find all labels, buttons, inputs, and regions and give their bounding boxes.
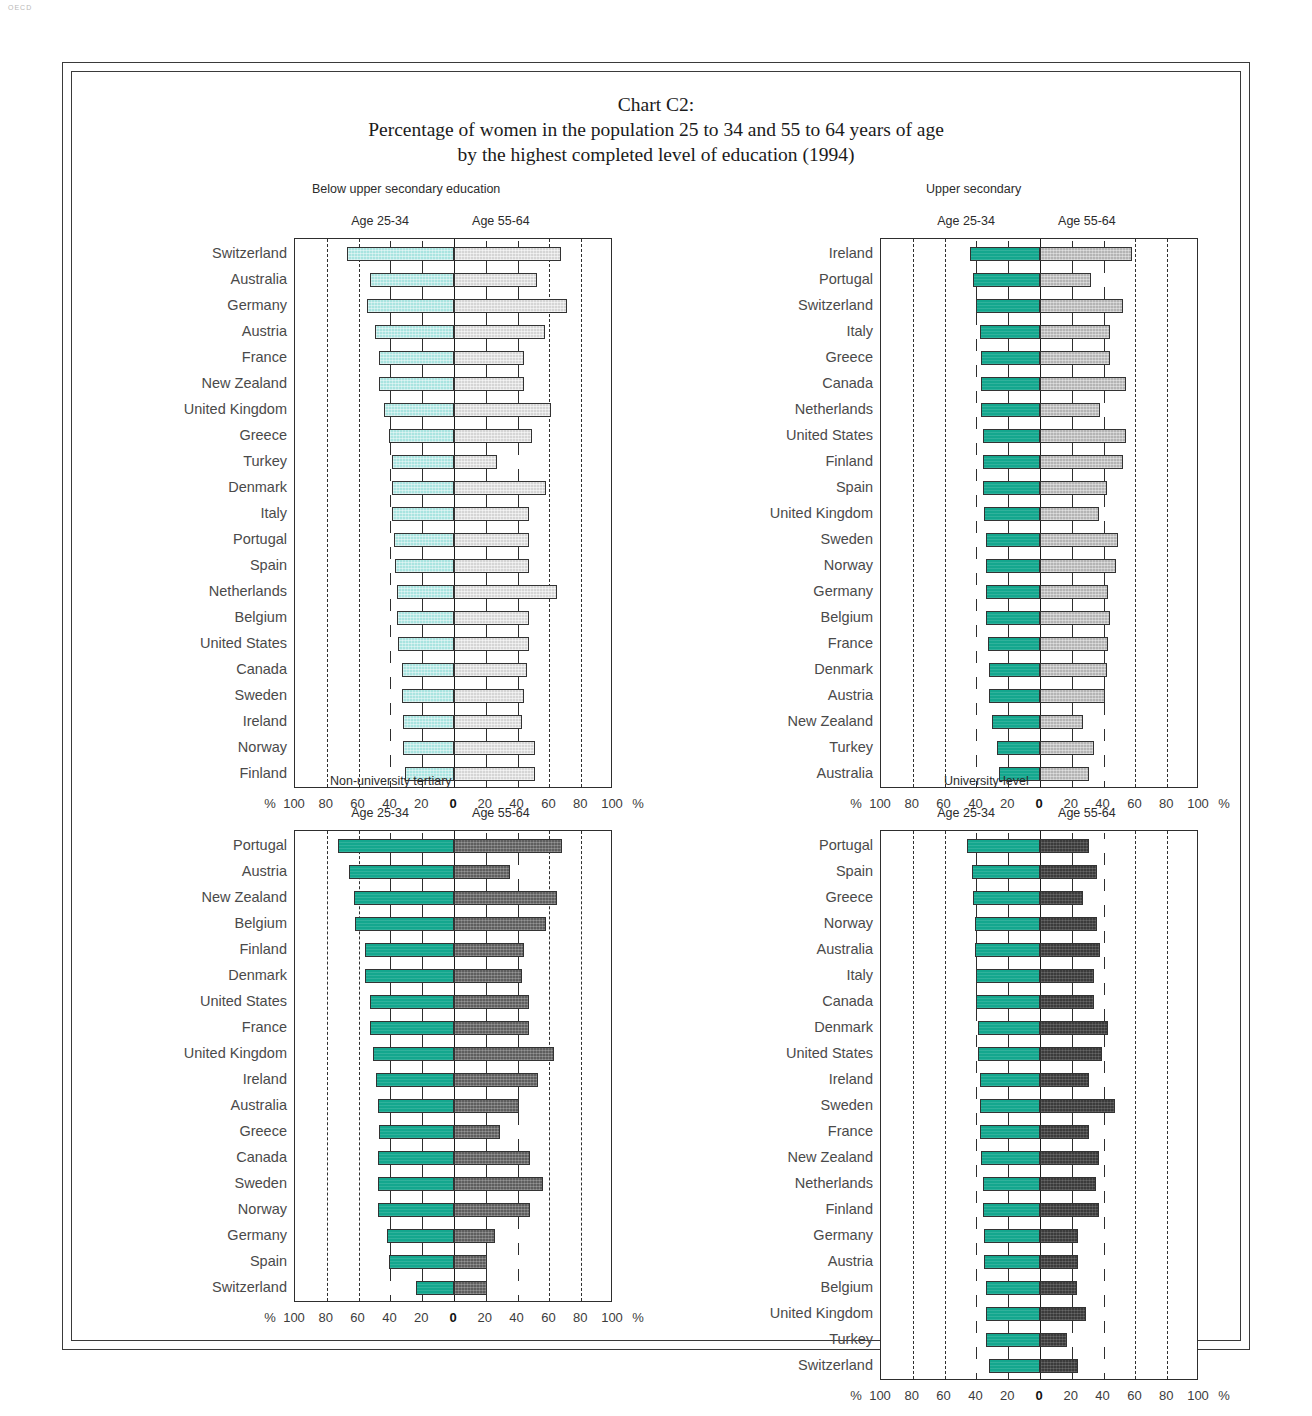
bar-age-55-64 [454, 1021, 529, 1035]
bar-row [295, 267, 611, 293]
axis-tick [976, 449, 977, 455]
bar-age-25-34 [967, 839, 1040, 853]
bar-age-25-34 [375, 325, 455, 339]
bar-row [881, 631, 1197, 657]
axis-tick [976, 423, 977, 429]
bar-row [295, 1249, 611, 1275]
bar-age-25-34 [395, 559, 454, 573]
bar-row [295, 397, 611, 423]
axis-tick [976, 1353, 977, 1359]
bar-age-55-64 [454, 559, 529, 573]
plot-inner [881, 239, 1197, 787]
axis-tick [976, 1327, 977, 1333]
bar-row [881, 963, 1197, 989]
axis-tick [390, 553, 391, 559]
axis-tick [1104, 1223, 1105, 1229]
category-label: France [72, 344, 287, 370]
category-label: Netherlands [72, 578, 287, 604]
bar-age-55-64 [454, 865, 510, 879]
bar-row [295, 631, 611, 657]
bar-age-25-34 [989, 663, 1040, 677]
bar-age-25-34 [387, 1229, 454, 1243]
axis-tick [1104, 267, 1105, 273]
bar-age-25-34 [378, 1099, 454, 1113]
bar-row [881, 1119, 1197, 1145]
chart-inner-frame: Chart C2: Percentage of women in the pop… [71, 71, 1241, 1341]
bar-age-55-64 [454, 585, 557, 599]
category-label: Italy [658, 318, 873, 344]
axis-tick-label: 80 [573, 796, 587, 811]
category-label: Spain [72, 1248, 287, 1274]
category-label: Spain [658, 858, 873, 884]
category-label: Greece [658, 344, 873, 370]
bar-row [295, 1145, 611, 1171]
axis-tick [976, 605, 977, 611]
bar-row [295, 1041, 611, 1067]
bar-row [295, 833, 611, 859]
bar-row [295, 241, 611, 267]
bar-age-25-34 [397, 611, 454, 625]
category-label: Ireland [72, 1066, 287, 1092]
axis-tick [976, 319, 977, 325]
bar-row [881, 859, 1197, 885]
bar-row [881, 937, 1197, 963]
bar-age-25-34 [976, 969, 1040, 983]
category-label: Ireland [72, 708, 287, 734]
bar-row [881, 1041, 1197, 1067]
axis-tick [518, 781, 519, 787]
bar-row [295, 293, 611, 319]
axis-tick [390, 709, 391, 715]
category-label: Belgium [72, 910, 287, 936]
category-label: Portugal [72, 526, 287, 552]
category-label: Italy [72, 500, 287, 526]
bar-age-25-34 [980, 1125, 1040, 1139]
bar-row [881, 371, 1197, 397]
bar-age-25-34 [370, 995, 454, 1009]
bar-age-55-64 [1040, 917, 1097, 931]
bar-row [881, 1275, 1197, 1301]
axis-tick-label: 80 [319, 1310, 333, 1325]
legend-age-55-64: Age 55-64 [472, 214, 530, 228]
bar-row [295, 553, 611, 579]
bar-row [881, 475, 1197, 501]
bar-row [881, 1015, 1197, 1041]
bar-row [295, 449, 611, 475]
axis-tick [1104, 963, 1105, 969]
axis-tick-label: 80 [1159, 796, 1173, 811]
axis-tick-label: 40 [968, 1388, 982, 1403]
axis-tick [1072, 1373, 1073, 1379]
category-label: Norway [658, 910, 873, 936]
bar-age-25-34 [378, 1151, 454, 1165]
bar-row [881, 1301, 1197, 1327]
category-label: United States [658, 1040, 873, 1066]
axis-tick-label: 20 [414, 1310, 428, 1325]
category-label: New Zealand [658, 708, 873, 734]
bar-age-55-64 [1040, 1359, 1078, 1373]
bar-age-55-64 [454, 377, 524, 391]
panel-title: Non-university tertiary [330, 774, 452, 788]
axis-tick [976, 735, 977, 741]
bar-age-55-64 [454, 1125, 500, 1139]
axis-tick [976, 475, 977, 481]
category-label: Switzerland [72, 240, 287, 266]
bar-age-25-34 [975, 943, 1040, 957]
category-label: Turkey [658, 1326, 873, 1352]
bar-age-25-34 [986, 1281, 1040, 1295]
category-label: United Kingdom [72, 1040, 287, 1066]
bar-age-25-34 [338, 839, 454, 853]
axis-tick [976, 345, 977, 351]
bar-age-25-34 [973, 891, 1040, 905]
bar-age-25-34 [347, 247, 454, 261]
axis-tick [1104, 859, 1105, 865]
bar-age-25-34 [370, 273, 454, 287]
category-label: Denmark [72, 474, 287, 500]
bar-row [295, 605, 611, 631]
category-label: Turkey [72, 448, 287, 474]
bar-age-25-34 [981, 403, 1040, 417]
bar-row [295, 1223, 611, 1249]
axis-tick-label: 0 [1035, 1388, 1042, 1403]
axis-tick-label: 100 [283, 1310, 305, 1325]
axis-tick [976, 1145, 977, 1151]
bar-age-55-64 [454, 481, 546, 495]
bar-age-55-64 [454, 839, 562, 853]
